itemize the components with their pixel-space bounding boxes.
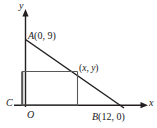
geometry-figure: y x A(0, 9) B(12, 0) C O (x, y) (0, 0, 157, 128)
x-axis-label: x (149, 98, 153, 108)
y-axis-label: y (19, 1, 23, 11)
point-label-a: A(0, 9) (28, 31, 56, 41)
point-a-coords: (0, 9) (34, 30, 56, 41)
point-label-b: B(12, 0) (92, 112, 125, 122)
origin-label: O (27, 110, 34, 120)
hypotenuse-segment-ab (26, 40, 125, 109)
point-label-c: C (6, 98, 13, 108)
point-b-coords: (12, 0) (98, 111, 125, 122)
variable-point-close: ) (95, 63, 98, 73)
y-axis (22, 9, 28, 107)
x-axis-arrowhead (141, 102, 149, 108)
variable-point-label: (x, y) (79, 64, 99, 74)
inscribed-rectangle (22, 72, 77, 106)
